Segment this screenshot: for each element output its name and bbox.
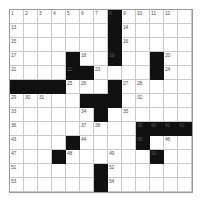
- crossword-cell[interactable]: 25: [66, 80, 80, 94]
- crossword-cell[interactable]: [150, 24, 164, 38]
- crossword-cell[interactable]: 37: [80, 122, 94, 136]
- crossword-cell[interactable]: [66, 108, 80, 122]
- crossword-cell[interactable]: 9: [122, 10, 136, 24]
- crossword-cell[interactable]: [66, 164, 80, 178]
- crossword-cell[interactable]: [66, 122, 80, 136]
- crossword-cell[interactable]: [136, 150, 150, 164]
- crossword-cell[interactable]: 48: [66, 150, 80, 164]
- crossword-cell[interactable]: 52: [108, 164, 122, 178]
- crossword-cell[interactable]: [38, 66, 52, 80]
- crossword-cell[interactable]: 29: [10, 94, 24, 108]
- crossword-cell[interactable]: [52, 122, 66, 136]
- crossword-cell[interactable]: [38, 150, 52, 164]
- crossword-cell[interactable]: [38, 52, 52, 66]
- crossword-cell[interactable]: [52, 108, 66, 122]
- crossword-cell[interactable]: [122, 66, 136, 80]
- crossword-cell[interactable]: [52, 178, 66, 192]
- crossword-cell[interactable]: [24, 38, 38, 52]
- crossword-cell[interactable]: [178, 94, 192, 108]
- crossword-cell[interactable]: [178, 66, 192, 80]
- crossword-cell[interactable]: [24, 164, 38, 178]
- crossword-cell[interactable]: [136, 178, 150, 192]
- crossword-cell[interactable]: [80, 24, 94, 38]
- crossword-cell[interactable]: 27: [122, 80, 136, 94]
- crossword-cell[interactable]: [24, 108, 38, 122]
- crossword-cell[interactable]: [164, 38, 178, 52]
- crossword-cell[interactable]: 47: [10, 150, 24, 164]
- crossword-cell[interactable]: [108, 136, 122, 150]
- crossword-cell[interactable]: 53: [10, 178, 24, 192]
- crossword-cell[interactable]: [178, 164, 192, 178]
- crossword-cell[interactable]: 1: [10, 10, 24, 24]
- crossword-cell[interactable]: [150, 136, 164, 150]
- crossword-cell[interactable]: [122, 164, 136, 178]
- crossword-cell[interactable]: [150, 94, 164, 108]
- crossword-cell[interactable]: [122, 136, 136, 150]
- crossword-cell[interactable]: 31: [38, 94, 52, 108]
- crossword-cell[interactable]: [122, 52, 136, 66]
- crossword-cell[interactable]: [164, 164, 178, 178]
- crossword-cell[interactable]: 12: [164, 10, 178, 24]
- crossword-cell[interactable]: 30: [24, 94, 38, 108]
- crossword-cell[interactable]: [122, 122, 136, 136]
- crossword-cell[interactable]: [38, 178, 52, 192]
- crossword-cell[interactable]: 35: [122, 108, 136, 122]
- crossword-cell[interactable]: [164, 108, 178, 122]
- crossword-cell[interactable]: [80, 150, 94, 164]
- crossword-cell[interactable]: [66, 24, 80, 38]
- crossword-cell[interactable]: [136, 164, 150, 178]
- crossword-cell[interactable]: 49: [108, 150, 122, 164]
- crossword-cell[interactable]: 5: [66, 10, 80, 24]
- crossword-cell[interactable]: [24, 24, 38, 38]
- crossword-cell[interactable]: [136, 38, 150, 52]
- crossword-cell[interactable]: 7: [94, 10, 108, 24]
- crossword-cell[interactable]: [24, 52, 38, 66]
- crossword-cell[interactable]: 44: [80, 136, 94, 150]
- crossword-cell[interactable]: [164, 94, 178, 108]
- crossword-cell[interactable]: 6: [80, 10, 94, 24]
- crossword-cell[interactable]: [94, 24, 108, 38]
- crossword-cell[interactable]: [164, 150, 178, 164]
- crossword-cell[interactable]: [136, 24, 150, 38]
- crossword-cell[interactable]: 24: [164, 66, 178, 80]
- crossword-cell[interactable]: [38, 136, 52, 150]
- crossword-cell[interactable]: [108, 122, 122, 136]
- crossword-cell[interactable]: [52, 38, 66, 52]
- crossword-cell[interactable]: [150, 164, 164, 178]
- crossword-cell[interactable]: [122, 150, 136, 164]
- crossword-cell[interactable]: [164, 24, 178, 38]
- crossword-cell[interactable]: [38, 122, 52, 136]
- crossword-cell[interactable]: [178, 108, 192, 122]
- crossword-cell[interactable]: [178, 52, 192, 66]
- crossword-cell[interactable]: [178, 150, 192, 164]
- crossword-cell[interactable]: [150, 38, 164, 52]
- crossword-cell[interactable]: 21: [10, 66, 24, 80]
- crossword-cell[interactable]: 54: [108, 178, 122, 192]
- crossword-cell[interactable]: [178, 24, 192, 38]
- crossword-cell[interactable]: [52, 52, 66, 66]
- crossword-cell[interactable]: [24, 66, 38, 80]
- crossword-cell[interactable]: [52, 136, 66, 150]
- crossword-cell[interactable]: [150, 80, 164, 94]
- crossword-cell[interactable]: [52, 164, 66, 178]
- crossword-cell[interactable]: [66, 94, 80, 108]
- crossword-cell[interactable]: 34: [80, 108, 94, 122]
- crossword-cell[interactable]: 3: [38, 10, 52, 24]
- crossword-cell[interactable]: [178, 80, 192, 94]
- crossword-cell[interactable]: [94, 150, 108, 164]
- crossword-cell[interactable]: [178, 178, 192, 192]
- crossword-cell[interactable]: [164, 178, 178, 192]
- crossword-cell[interactable]: [178, 38, 192, 52]
- crossword-cell[interactable]: [94, 80, 108, 94]
- crossword-cell[interactable]: [122, 94, 136, 108]
- crossword-cell[interactable]: [24, 122, 38, 136]
- crossword-cell[interactable]: 13: [10, 24, 24, 38]
- crossword-grid[interactable]: 1234567891011121314151617181920212223242…: [9, 9, 193, 193]
- crossword-cell[interactable]: 43: [10, 136, 24, 150]
- crossword-cell[interactable]: [80, 164, 94, 178]
- crossword-cell[interactable]: [136, 66, 150, 80]
- crossword-cell[interactable]: [38, 108, 52, 122]
- crossword-cell[interactable]: 11: [150, 10, 164, 24]
- crossword-cell[interactable]: [24, 150, 38, 164]
- crossword-cell[interactable]: 32: [136, 94, 150, 108]
